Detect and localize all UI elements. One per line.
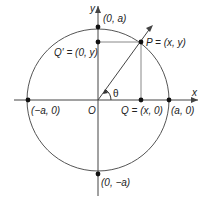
ray-arrow-icon <box>146 25 153 32</box>
x-axis-label: x <box>191 87 198 98</box>
label-right: (a, 0) <box>171 105 194 116</box>
point-p <box>139 40 144 45</box>
unit-circle-diagram: y x (0, a) Q′ = (0, y) P = (x, y) (−a, 0… <box>0 0 207 207</box>
angle-label: θ <box>113 88 119 99</box>
point-left <box>26 98 31 103</box>
point-top <box>96 25 101 30</box>
point-bottom <box>96 172 101 177</box>
point-q <box>139 98 144 103</box>
label-q: Q = (x, 0) <box>121 105 163 116</box>
terminal-ray <box>98 27 151 100</box>
label-left: (−a, 0) <box>31 105 60 116</box>
point-right <box>167 98 172 103</box>
y-axis-label: y <box>89 3 96 14</box>
label-q-prime: Q′ = (0, y) <box>54 47 98 58</box>
label-bottom: (0, −a) <box>101 177 130 188</box>
y-axis-arrow-icon <box>95 6 101 13</box>
label-p: P = (x, y) <box>146 37 186 48</box>
label-origin: O <box>88 105 96 116</box>
point-q-prime <box>96 40 101 45</box>
label-top: (0, a) <box>103 13 126 24</box>
